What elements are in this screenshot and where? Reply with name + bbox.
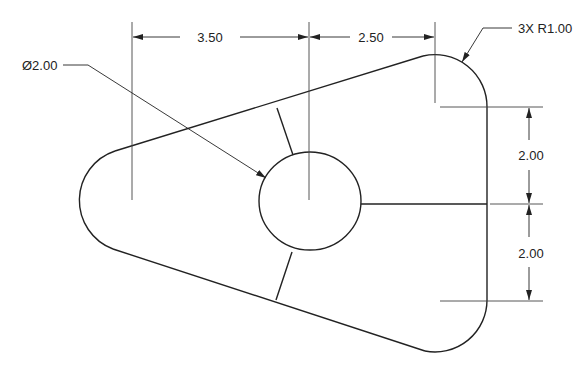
extension-lines	[132, 22, 543, 301]
center-hole	[259, 152, 361, 250]
radius-leader	[462, 28, 512, 62]
dim-diameter: Ø2.00	[22, 58, 57, 73]
hole-leader	[63, 65, 266, 178]
dim-2-00-lower: 2.00	[518, 246, 543, 261]
ribs	[276, 108, 487, 300]
dim-3-50: 3.50	[197, 30, 222, 45]
dim-2-00-upper: 2.00	[518, 148, 543, 163]
part-outline	[79, 55, 487, 352]
drawing-canvas: 3.50 2.50 2.00 2.00 Ø2.00 3X R1.00	[0, 0, 588, 370]
dim-radius: 3X R1.00	[518, 21, 572, 36]
dim-2-50: 2.50	[358, 30, 383, 45]
part-drawing: 3.50 2.50 2.00 2.00 Ø2.00 3X R1.00	[0, 0, 588, 370]
